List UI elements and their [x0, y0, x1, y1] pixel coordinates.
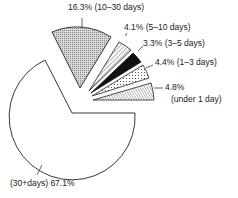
slice-10-30-days [52, 27, 111, 88]
label-1-3-days: 4.4% (1–3 days) [155, 57, 217, 67]
label-10-30-days: 16.3% (10–30 days) [68, 2, 144, 12]
slice-30-plus-days [9, 60, 135, 180]
label-30-plus-days: (30+days) 67.1% [10, 178, 75, 188]
label-under-1-day: (under 1 day) [171, 94, 222, 104]
label-under-1-day-pct: 4.8% [165, 82, 184, 92]
label-3-5-days: 3.3% (3–5 days) [143, 38, 205, 48]
label-5-10-days: 4.1% (5–10 days) [124, 22, 191, 32]
